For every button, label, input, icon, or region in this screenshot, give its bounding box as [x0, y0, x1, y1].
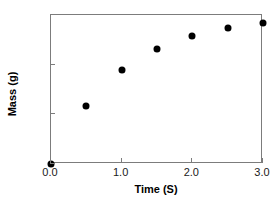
y-tick-mark [50, 64, 55, 65]
y-tick-mark [50, 14, 55, 15]
data-point-series [51, 15, 261, 162]
data-point [154, 45, 161, 52]
scatter-chart-figure: 0.51.01.52.0 0.01.02.03.0 Mass (g) Time … [0, 0, 275, 207]
y-tick-mark [50, 163, 55, 164]
x-tick-mark [262, 158, 263, 163]
y-axis-title: Mass (g) [6, 49, 18, 139]
x-tick-label: 3.0 [240, 166, 275, 178]
x-tick-mark [50, 158, 51, 163]
x-tick-mark [121, 158, 122, 163]
x-axis-title: Time (S) [50, 183, 262, 195]
data-point [189, 32, 196, 39]
data-point [224, 24, 231, 31]
x-tick-mark [191, 158, 192, 163]
x-tick-label: 1.0 [99, 166, 143, 178]
x-tick-label: 2.0 [169, 166, 213, 178]
data-point [83, 103, 90, 110]
data-point [118, 66, 125, 73]
data-point [260, 19, 267, 26]
plot-area [50, 14, 262, 163]
x-tick-label: 0.0 [28, 166, 72, 178]
y-tick-mark [50, 113, 55, 114]
